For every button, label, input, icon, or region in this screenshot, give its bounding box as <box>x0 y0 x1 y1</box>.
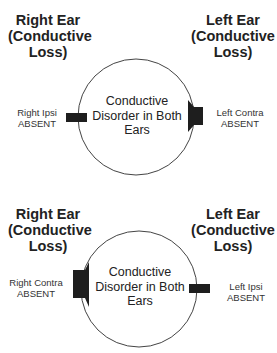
title-line: (Conductive <box>190 28 276 44</box>
left-ipsi-label: Left Ipsi ABSENT <box>218 281 274 303</box>
probe-label-line: Right Contra <box>3 277 69 288</box>
probe-label-line: ABSENT <box>218 292 274 303</box>
probe-label-line: ABSENT <box>3 288 69 299</box>
title-line: Loss) <box>190 238 276 254</box>
right-ear-title: Right Ear (Conductive Loss) <box>8 12 88 60</box>
probe-label-line: ABSENT <box>208 118 272 129</box>
center-line: Conductive <box>77 94 197 109</box>
center-line: Ears <box>77 123 197 138</box>
center-line: Ears <box>80 294 200 309</box>
center-line: Conductive <box>80 265 200 280</box>
left-ear-title: Left Ear (Conductive Loss) <box>190 12 276 60</box>
probe-label-line: Right Ipsi <box>8 107 66 118</box>
center-line: Disorder in Both <box>80 280 200 295</box>
title-line: Left Ear <box>190 12 276 28</box>
right-ipsi-label: Right Ipsi ABSENT <box>8 107 66 129</box>
left-contra-label: Left Contra ABSENT <box>208 107 272 129</box>
right-contra-label: Right Contra ABSENT <box>3 277 69 299</box>
title-line: Right Ear <box>8 206 88 222</box>
center-line: Disorder in Both <box>77 109 197 124</box>
title-line: Right Ear <box>8 12 88 28</box>
left-ear-title: Left Ear (Conductive Loss) <box>190 206 276 254</box>
right-ear-title: Right Ear (Conductive Loss) <box>8 206 88 254</box>
diagram-panel-bottom: Right Ear (Conductive Loss) Left Ear (Co… <box>0 176 277 353</box>
title-line: Loss) <box>8 44 88 60</box>
probe-label-line: ABSENT <box>8 118 66 129</box>
probe-label-line: Left Ipsi <box>218 281 274 292</box>
title-line: Loss) <box>190 44 276 60</box>
title-line: (Conductive <box>8 28 88 44</box>
title-line: Loss) <box>8 238 88 254</box>
title-line: Left Ear <box>190 206 276 222</box>
probe-label-line: Left Contra <box>208 107 272 118</box>
title-line: (Conductive <box>190 222 276 238</box>
title-line: (Conductive <box>8 222 88 238</box>
diagram-panel-top: Right Ear (Conductive Loss) Left Ear (Co… <box>0 0 277 176</box>
center-diagnosis-text: Conductive Disorder in Both Ears <box>77 94 197 138</box>
center-diagnosis-text: Conductive Disorder in Both Ears <box>80 265 200 309</box>
